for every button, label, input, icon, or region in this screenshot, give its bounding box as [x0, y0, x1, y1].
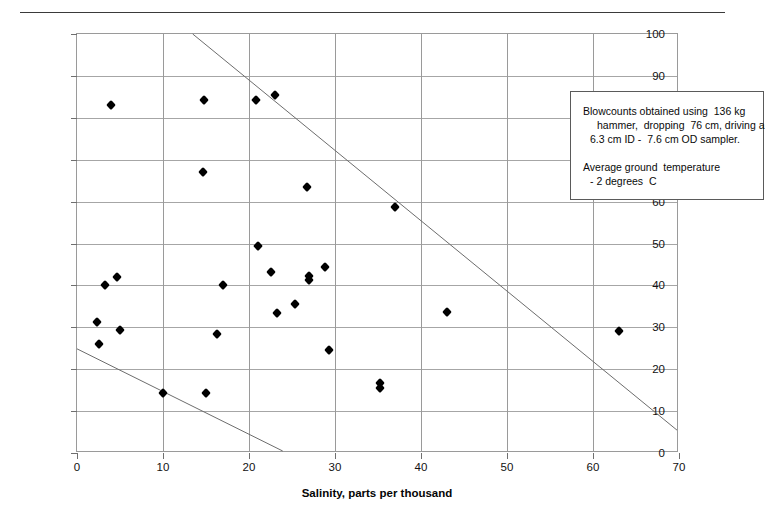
data-point [320, 262, 330, 272]
annotation-line-5: - 2 degrees C [583, 174, 753, 188]
x-tick-label: 70 [673, 461, 686, 473]
data-point [201, 388, 211, 398]
gridline-horizontal [77, 369, 677, 370]
annotation-line-2: hammer, dropping 76 cm, driving a [583, 118, 753, 132]
x-tick [679, 453, 680, 459]
data-point [324, 345, 334, 355]
gridline-horizontal [77, 244, 677, 245]
gridline-horizontal [77, 202, 677, 203]
x-tick-label: 30 [329, 461, 342, 473]
y-tick [71, 285, 77, 286]
gridline-horizontal [77, 327, 677, 328]
y-tick-label: 10 [652, 405, 665, 417]
annotation-line-3: 6.3 cm ID - 7.6 cm OD sampler. [583, 132, 753, 146]
y-tick-label: 90 [652, 70, 665, 82]
x-tick-label: 40 [415, 461, 428, 473]
y-tick [71, 202, 77, 203]
x-tick [507, 453, 508, 459]
data-point [106, 100, 116, 110]
x-tick [163, 453, 164, 459]
gridline-vertical [335, 34, 336, 451]
y-tick [71, 76, 77, 77]
x-tick-label: 20 [243, 461, 256, 473]
annotation-line-4: Average ground temperature [583, 160, 753, 174]
data-point [290, 299, 300, 309]
x-tick [593, 453, 594, 459]
y-tick-label: 20 [652, 363, 665, 375]
data-point [303, 182, 313, 192]
y-tick [71, 34, 77, 35]
x-tick-label: 60 [587, 461, 600, 473]
x-tick-label: 0 [74, 461, 80, 473]
x-tick [421, 453, 422, 459]
y-tick [71, 327, 77, 328]
x-tick [335, 453, 336, 459]
x-tick [77, 453, 78, 459]
annotation-spacer [583, 147, 753, 160]
plot-area: 0102030405060708090100 010203040506070 B… [76, 33, 678, 452]
data-point [92, 317, 102, 327]
data-point [112, 272, 122, 282]
gridline-vertical [421, 34, 422, 451]
annotation-line-1: Blowcounts obtained using 136 kg [583, 104, 753, 118]
y-tick-label: 0 [659, 447, 665, 459]
data-point [442, 307, 452, 317]
data-point [158, 388, 168, 398]
annotation-textbox: Blowcounts obtained using 136 kg hammer,… [570, 91, 764, 200]
data-point [253, 241, 263, 251]
data-point [212, 329, 222, 339]
y-tick [71, 369, 77, 370]
data-point [390, 202, 400, 212]
data-point [218, 280, 228, 290]
y-tick [71, 411, 77, 412]
gridline-horizontal [77, 285, 677, 286]
x-tick-label: 10 [157, 461, 170, 473]
y-tick-label: 30 [652, 321, 665, 333]
lower-bound-line [77, 349, 283, 451]
y-tick-label: 100 [646, 28, 665, 40]
x-tick-label: 50 [501, 461, 514, 473]
gridline-horizontal [77, 411, 677, 412]
data-point [251, 95, 261, 105]
data-point [199, 95, 209, 105]
data-point [100, 280, 110, 290]
x-tick [249, 453, 250, 459]
data-point [270, 90, 280, 100]
y-tick [71, 244, 77, 245]
y-tick [71, 160, 77, 161]
x-axis-title: Salinity, parts per thousand [76, 487, 678, 499]
data-point [94, 339, 104, 349]
data-point [198, 167, 208, 177]
y-tick-label: 40 [652, 279, 665, 291]
data-point [266, 267, 276, 277]
gridline-vertical [249, 34, 250, 451]
gridline-vertical [507, 34, 508, 451]
gridline-horizontal [77, 76, 677, 77]
y-tick-label: 50 [652, 238, 665, 250]
y-tick [71, 118, 77, 119]
data-point [272, 309, 282, 319]
